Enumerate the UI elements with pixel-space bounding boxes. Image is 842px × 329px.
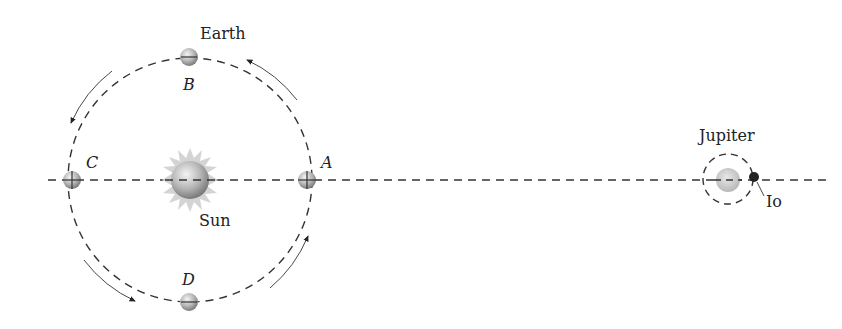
label-sun: Sun: [199, 211, 231, 230]
orbit-diagram: Earth B C A Sun D Jupiter Io: [0, 0, 842, 329]
io-icon: [749, 172, 759, 182]
label-earth: Earth: [200, 24, 246, 43]
label-d: D: [181, 270, 195, 289]
label-jupiter: Jupiter: [697, 126, 755, 145]
label-a: A: [319, 153, 333, 172]
arrow-a-to-b: [247, 60, 297, 100]
label-c: C: [86, 153, 98, 172]
arrow-d-to-a: [270, 236, 308, 288]
label-b: B: [182, 75, 195, 94]
label-io: Io: [766, 192, 782, 211]
arrow-b-to-c: [71, 71, 112, 123]
io-pointer: [757, 182, 764, 196]
arrow-c-to-d: [84, 260, 135, 301]
